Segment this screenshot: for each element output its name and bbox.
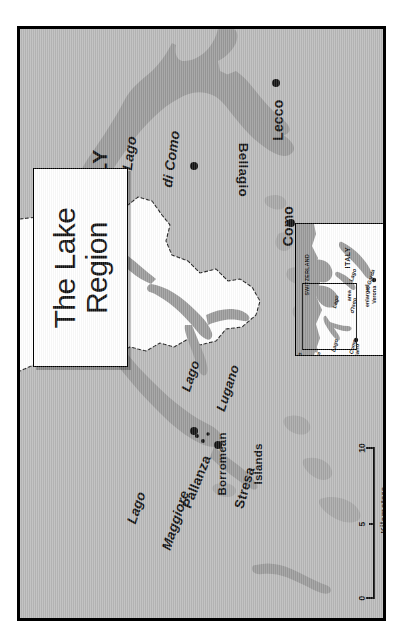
map-title-box: The Lake Region: [33, 168, 128, 367]
label-city-lecco: Lecco: [271, 94, 285, 146]
label-lake-orta-line2: d'Orta: [297, 606, 325, 621]
map-page: The Lake Region ITALY SWITZERLAND Lago d…: [0, 0, 403, 643]
map-canvas: The Lake Region ITALY SWITZERLAND Lago d…: [17, 26, 386, 621]
scale-bar: 10 5 0 Kilometers: [346, 443, 386, 605]
label-lake-maggiore-line1: Lago: [117, 466, 156, 550]
terrain-patch: [303, 458, 333, 480]
scale-tick-cap-bottom: [366, 597, 375, 599]
label-city-bellagio: Bellagio: [236, 137, 250, 203]
label-borromean-line1: Borromean: [218, 421, 230, 507]
city-dot-como: [287, 219, 295, 227]
label-lake-lugano-line1: Lago: [172, 337, 209, 415]
scale-unit-label: Kilometers: [379, 480, 386, 540]
city-dot-bellagio: [190, 162, 198, 170]
inset-label-city-verona: Verona: [372, 282, 378, 308]
scale-tick-mid: [369, 523, 375, 525]
title-line-1: The Lake: [48, 207, 81, 328]
inset-area-enlarged-box: [302, 283, 357, 350]
title-line-2: Region: [80, 221, 113, 313]
city-dot-pallanza: [190, 427, 198, 435]
label-lake-lugano-line2: Lugano: [210, 349, 247, 427]
scale-tick-cap-top: [366, 447, 375, 449]
city-dot-stresa: [214, 441, 222, 449]
label-lake-como-line2: di Como: [159, 118, 184, 199]
scale-tick-10: 10: [357, 441, 367, 455]
city-dot-lecco: [272, 79, 280, 87]
label-lake-orta-line1: Lago: [259, 597, 287, 621]
scale-tick-0: 0: [357, 592, 367, 604]
inset-locator-map: SWITZERLAND ITALY area enlarged Lago di …: [295, 223, 385, 356]
page-title: The Lake Region: [49, 207, 113, 328]
scale-tick-5: 5: [357, 518, 367, 530]
lake-orta-water: [252, 564, 331, 594]
